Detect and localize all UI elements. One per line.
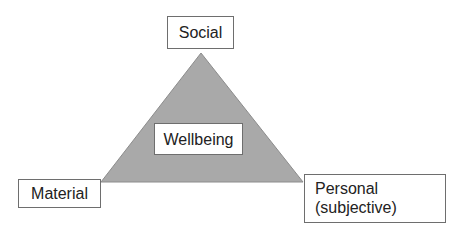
personal-label-box: Personal (subjective): [304, 174, 446, 223]
social-label: Social: [179, 23, 223, 42]
wellbeing-label: Wellbeing: [164, 130, 234, 149]
material-label-box: Material: [18, 179, 101, 208]
social-label-box: Social: [167, 16, 234, 49]
wellbeing-triangle: [101, 53, 303, 182]
material-label: Material: [31, 184, 88, 203]
wellbeing-label-box: Wellbeing: [154, 123, 243, 155]
personal-label: Personal: [315, 179, 445, 198]
personal-subjective-label: (subjective): [315, 198, 445, 217]
